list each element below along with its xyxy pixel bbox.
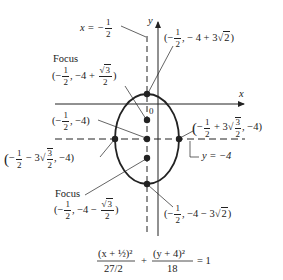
leader-left-vertex	[100, 140, 114, 157]
top-vertex-point	[144, 91, 150, 97]
focus-bottom-title: Focus	[55, 189, 80, 200]
focus-bottom-point	[144, 155, 150, 161]
leader-top-vertex	[148, 46, 173, 93]
center-point	[144, 136, 150, 142]
ellipse-diagram	[0, 0, 283, 280]
origin-label: 0	[149, 107, 154, 116]
left-vertex-label: (−12 − 3√32, −4)	[4, 148, 74, 170]
equation-term2-numerator: (y + 4)²	[153, 249, 185, 260]
center-label: (−12, −4)	[52, 111, 90, 132]
leader-horizontal-line	[190, 141, 199, 157]
leader-vertical-line	[121, 26, 146, 37]
leader-focus-bottom	[85, 159, 146, 195]
equation-term1-numerator: (x + ½)²	[98, 249, 132, 260]
leader-center	[98, 120, 146, 138]
y-axis-label: y	[148, 16, 153, 27]
equation-equals: = 1	[197, 256, 211, 267]
horizontal-line-label: y = −4	[202, 151, 231, 162]
right-vertex-label: ((−−12 + 3√32, −4)	[192, 117, 262, 139]
equation-term2-denominator: 18	[167, 264, 178, 275]
equation-plus: +	[141, 256, 147, 267]
focus-bottom-label: (−12, −4 − √32)	[54, 200, 118, 221]
focus-top-label: (−12, −4 + √32)	[52, 66, 116, 87]
vertical-line-label: x = −12	[80, 18, 113, 39]
equation-term1-denominator: 27/2	[104, 264, 123, 275]
x-axis-label: x	[239, 89, 244, 100]
right-vertex-point	[176, 136, 182, 142]
focus-top-point	[144, 117, 150, 123]
bottom-vertex-label: (−12, −4 − 3√2)	[164, 204, 231, 225]
focus-top-title: Focus	[53, 54, 78, 65]
top-vertex-label: (−12, − 4 + 3√2)	[164, 28, 234, 49]
